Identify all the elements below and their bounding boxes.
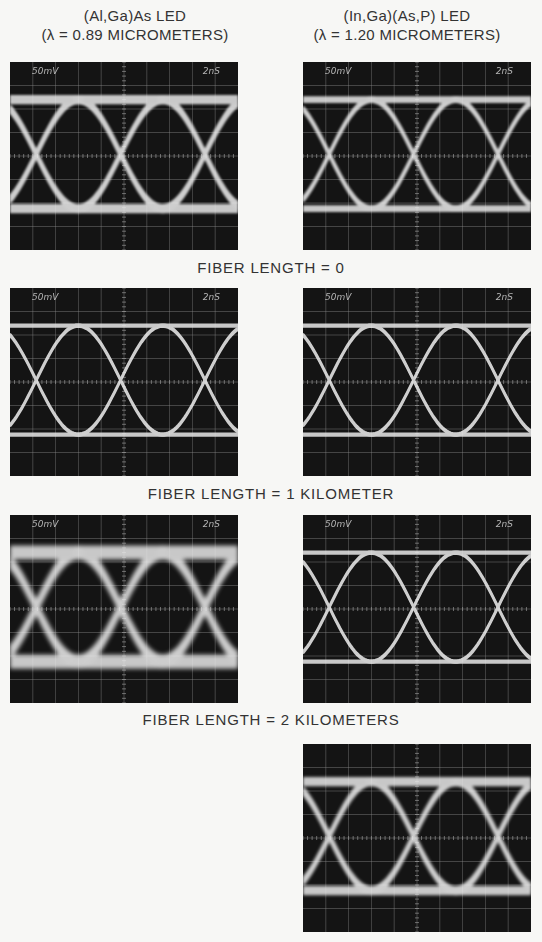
column-title-line1: (In,Ga)(As,P) LED	[272, 6, 542, 25]
scope-graticule	[303, 744, 531, 932]
time-per-div-label: 2nS	[496, 292, 513, 302]
time-per-div-label: 2nS	[496, 519, 513, 529]
scope-graticule	[303, 288, 531, 476]
eye-diagram-ingaasp-1km: 50mV 2nS	[303, 288, 531, 476]
volts-per-div-label: 50mV	[325, 292, 351, 302]
volts-per-div-label: 50mV	[32, 292, 58, 302]
scope-graticule	[10, 515, 238, 703]
column-title-line2: (λ = 0.89 MICROMETERS)	[0, 25, 270, 44]
volts-per-div-label: 50mV	[325, 66, 351, 76]
row-caption-fiber-1km: FIBER LENGTH = 1 KILOMETER	[0, 485, 542, 502]
row-caption-fiber-2km: FIBER LENGTH = 2 KILOMETERS	[0, 711, 542, 728]
volts-per-div-label: 50mV	[32, 66, 58, 76]
eye-diagram-ingaasp-0km: 50mV 2nS	[303, 62, 531, 250]
column-title-line1: (Al,Ga)As LED	[0, 6, 270, 25]
row-caption-fiber-0: FIBER LENGTH = 0	[0, 259, 542, 276]
scope-graticule	[303, 62, 531, 250]
column-title-algaas: (Al,Ga)As LED (λ = 0.89 MICROMETERS)	[0, 6, 270, 44]
eye-diagram-algaas-1km: 50mV 2nS	[10, 288, 238, 476]
eye-diagram-algaas-2km: 50mV 2nS	[10, 515, 238, 703]
eye-diagram-ingaasp-extra	[303, 744, 531, 932]
time-per-div-label: 2nS	[496, 66, 513, 76]
scope-graticule	[10, 288, 238, 476]
volts-per-div-label: 50mV	[325, 519, 351, 529]
scope-graticule	[303, 515, 531, 703]
time-per-div-label: 2nS	[203, 292, 220, 302]
time-per-div-label: 2nS	[203, 519, 220, 529]
scope-graticule	[10, 62, 238, 250]
eye-diagram-algaas-0km: 50mV 2nS	[10, 62, 238, 250]
eye-diagram-ingaasp-2km: 50mV 2nS	[303, 515, 531, 703]
column-title-ingaasp: (In,Ga)(As,P) LED (λ = 1.20 MICROMETERS)	[272, 6, 542, 44]
time-per-div-label: 2nS	[203, 66, 220, 76]
volts-per-div-label: 50mV	[32, 519, 58, 529]
column-title-line2: (λ = 1.20 MICROMETERS)	[272, 25, 542, 44]
